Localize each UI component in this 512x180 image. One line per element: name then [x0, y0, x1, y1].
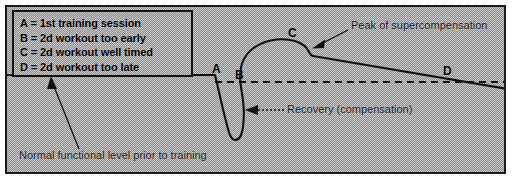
legend-item-d: D = 2d workout too late	[20, 60, 191, 75]
annotation-recovery: Recovery (compensation)	[287, 104, 412, 115]
point-label-d: D	[443, 65, 452, 77]
figure-container: A B C D Peak of supercompensation Recove…	[0, 0, 512, 180]
annotation-peak: Peak of supercompensation	[351, 20, 487, 31]
baseline-arrowhead	[47, 76, 57, 89]
legend-panel: A = 1st training session B = 2d workout …	[12, 10, 193, 77]
peak-arrowhead	[312, 40, 325, 49]
legend-item-b: B = 2d workout too early	[20, 31, 191, 46]
functional-level-curve	[215, 39, 506, 140]
baseline-leader-line	[53, 84, 79, 149]
figure-frame: A B C D Peak of supercompensation Recove…	[5, 5, 506, 174]
point-label-a: A	[212, 63, 221, 75]
recovery-arrowhead	[245, 105, 258, 115]
point-label-c: C	[288, 27, 297, 39]
legend-item-c: C = 2d workout well timed	[20, 45, 191, 60]
legend-item-a: A = 1st training session	[20, 16, 191, 31]
point-label-b: B	[235, 69, 244, 81]
annotation-baseline: Normal functional level prior to trainin…	[19, 150, 207, 161]
